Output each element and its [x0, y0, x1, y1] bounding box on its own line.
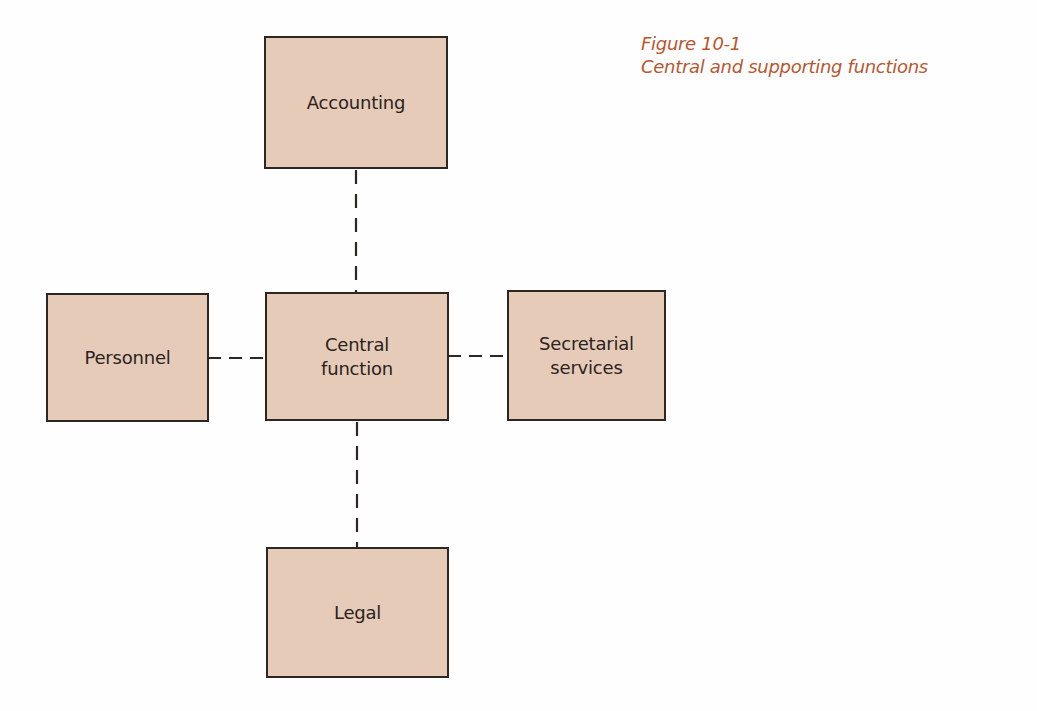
- node-accounting-label: Accounting: [307, 91, 406, 115]
- node-central-label-line2: function: [321, 357, 393, 381]
- node-secretarial-label-line1: Secretarial: [539, 332, 634, 356]
- node-legal: Legal: [266, 547, 449, 678]
- diagram-canvas: Accounting Central function Personnel Se…: [0, 0, 1037, 711]
- node-central-function: Central function: [265, 292, 449, 421]
- node-secretarial-services: Secretarial services: [507, 290, 666, 421]
- node-secretarial-label-line2: services: [550, 356, 622, 380]
- figure-caption: Figure 10-1 Central and supporting funct…: [641, 32, 928, 78]
- node-legal-label: Legal: [334, 601, 381, 625]
- figure-number: Figure 10-1: [641, 32, 928, 55]
- node-central-label-line1: Central: [325, 333, 389, 357]
- node-personnel-label: Personnel: [84, 346, 170, 370]
- figure-title: Central and supporting functions: [641, 55, 928, 78]
- node-accounting: Accounting: [264, 36, 448, 169]
- node-personnel: Personnel: [46, 293, 209, 422]
